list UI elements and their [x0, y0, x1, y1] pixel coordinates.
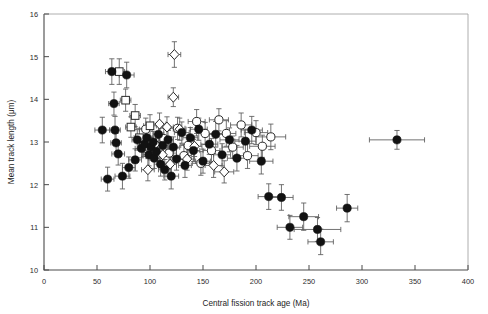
- data-point-filled-circle: [393, 136, 401, 144]
- x-tick-label: 150: [197, 277, 209, 286]
- data-point-filled-circle: [265, 193, 273, 201]
- data-point-filled-circle: [111, 126, 119, 134]
- data-point-filled-circle: [118, 172, 126, 180]
- data-point-filled-circle: [108, 68, 116, 76]
- data-point-filled-circle: [205, 140, 213, 148]
- y-tick-label: 11: [30, 223, 38, 232]
- x-axis-title: Central fission track age (Ma): [203, 299, 310, 308]
- data-point-filled-circle: [133, 136, 141, 144]
- data-point-open-square: [115, 68, 123, 76]
- x-tick-label: 400: [462, 277, 474, 286]
- data-point-open-square: [146, 122, 154, 130]
- y-tick-label: 14: [30, 95, 38, 104]
- y-tick-label: 16: [30, 10, 38, 19]
- data-point-open-square: [122, 96, 130, 104]
- data-point-filled-circle: [257, 157, 265, 165]
- data-point-filled-circle: [300, 213, 308, 221]
- data-point-filled-circle: [195, 125, 203, 133]
- data-point-filled-circle: [112, 139, 120, 147]
- data-point-open-circle: [237, 121, 245, 129]
- data-point-filled-circle: [123, 71, 131, 79]
- data-point-filled-circle: [241, 137, 249, 145]
- y-axis-title: Mean track length (μm): [7, 100, 16, 185]
- data-point-filled-circle: [110, 100, 118, 108]
- data-point-open-circle: [215, 116, 223, 124]
- chart-figure: 05010015020025030035040010111213141516Ce…: [0, 0, 488, 314]
- data-point-filled-circle: [212, 130, 220, 138]
- data-point-filled-circle: [313, 225, 321, 233]
- data-point-open-diamond: [220, 167, 229, 177]
- data-point-filled-circle: [225, 136, 233, 144]
- y-tick-label: 15: [30, 53, 38, 62]
- data-point-filled-circle: [277, 193, 285, 201]
- data-point-filled-circle: [104, 175, 112, 183]
- data-point-filled-circle: [152, 147, 160, 155]
- x-tick-label: 350: [409, 277, 421, 286]
- data-point-open-circle: [258, 142, 266, 150]
- data-point-filled-circle: [125, 164, 133, 172]
- data-point-filled-circle: [189, 146, 197, 154]
- x-tick-label: 200: [250, 277, 262, 286]
- data-point-filled-circle: [98, 126, 106, 134]
- x-tick-label: 0: [42, 277, 46, 286]
- data-point-open-diamond: [170, 50, 179, 60]
- x-tick-label: 50: [93, 277, 101, 286]
- data-point-filled-circle: [172, 155, 180, 163]
- data-point-filled-circle: [169, 143, 177, 151]
- data-point-filled-circle: [233, 154, 241, 162]
- data-point-filled-circle: [131, 156, 139, 164]
- y-tick-label: 12: [30, 181, 38, 190]
- data-point-filled-circle: [317, 238, 325, 246]
- data-point-filled-circle: [218, 151, 226, 159]
- scatter-plot: 05010015020025030035040010111213141516Ce…: [0, 0, 488, 314]
- y-tick-label: 13: [30, 138, 38, 147]
- data-point-filled-circle: [181, 161, 189, 169]
- data-point-open-square: [127, 123, 135, 131]
- data-point-filled-circle: [248, 126, 256, 134]
- y-tick-label: 10: [30, 266, 38, 275]
- data-point-filled-circle: [199, 157, 207, 165]
- data-point-filled-circle: [343, 204, 351, 212]
- data-point-filled-circle: [167, 172, 175, 180]
- data-point-open-circle: [193, 117, 201, 125]
- data-point-filled-circle: [114, 150, 122, 158]
- data-point-filled-circle: [286, 223, 294, 231]
- data-point-filled-circle: [186, 134, 194, 142]
- data-point-open-circle: [267, 133, 275, 141]
- data-point-open-circle: [243, 152, 251, 160]
- data-point-filled-circle: [178, 129, 186, 137]
- data-point-open-square: [131, 112, 139, 120]
- data-point-open-diamond: [169, 92, 178, 102]
- data-point-filled-circle: [164, 136, 172, 144]
- x-tick-label: 250: [303, 277, 315, 286]
- data-point-filled-circle: [154, 130, 162, 138]
- x-tick-label: 100: [144, 277, 156, 286]
- data-point-filled-circle: [149, 138, 157, 146]
- x-tick-label: 300: [356, 277, 368, 286]
- data-point-filled-circle: [161, 166, 169, 174]
